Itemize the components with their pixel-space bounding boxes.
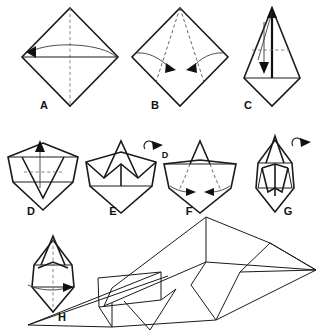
- step-d-diagram: [8, 140, 78, 210]
- airplane-tail-lower-edge: [240, 270, 316, 272]
- flip-symbol-e-extra-label: D: [162, 150, 169, 160]
- step-f-left-crease: [179, 164, 190, 190]
- airplane-spine-right: [206, 262, 316, 270]
- origami-diagram-sheet: A B: [0, 0, 318, 330]
- step-a-label: A: [40, 99, 48, 111]
- step-b-square-outline: [132, 8, 228, 106]
- airplane-right-wing-leading-edge: [206, 217, 316, 270]
- airplane-nose-corner-edge: [99, 307, 112, 327]
- step-h-arrowhead: [63, 283, 74, 292]
- step-f-right-crease: [210, 164, 221, 190]
- step-b-label: B: [151, 99, 159, 111]
- step-h-diagram: [28, 236, 74, 312]
- step-g-right-inner-edge: [288, 168, 292, 188]
- airplane-tail-upper-edge: [270, 243, 316, 270]
- airplane-mid-fold: [161, 289, 176, 300]
- step-b-left-arrowhead: [165, 63, 176, 73]
- airplane-trailing-edge: [112, 270, 316, 327]
- step-b-diagram: [132, 8, 228, 106]
- step-f-label: F: [186, 205, 193, 217]
- step-g-diagram: [256, 136, 294, 212]
- step-e-label: E: [109, 205, 116, 217]
- step-c-down-arrowhead: [259, 62, 269, 74]
- flip-symbol-step-g: [292, 138, 311, 147]
- step-d-outline: [8, 143, 78, 210]
- step-g-label: G: [284, 205, 293, 217]
- step-a-fold-arrow-curve: [30, 45, 116, 57]
- airplane-nose-bottom-edge: [28, 325, 112, 327]
- origami-instruction-illustration: A B: [0, 0, 318, 330]
- step-f-outline: [164, 160, 236, 213]
- step-b-right-arrowhead: [186, 63, 197, 73]
- step-f-diagram: [164, 141, 236, 213]
- step-c-label: C: [244, 99, 252, 111]
- step-g-left-inner-edge: [258, 168, 262, 188]
- airplane-spine-left: [104, 262, 206, 306]
- step-f-left-arrowhead: [186, 188, 196, 196]
- step-c-diagram: [244, 6, 300, 106]
- finished-paper-airplane: [28, 217, 316, 330]
- step-a-diagram: [22, 8, 118, 106]
- step-e-diagram: [86, 141, 156, 213]
- flip-symbol-step-e: [144, 141, 163, 150]
- step-d-inner-vee: [22, 157, 64, 198]
- step-d-label: D: [27, 205, 35, 217]
- step-f-right-arrowhead: [204, 188, 214, 196]
- airplane-nose-top-edge: [28, 272, 161, 325]
- airplane-tail-fold-edge: [240, 243, 270, 272]
